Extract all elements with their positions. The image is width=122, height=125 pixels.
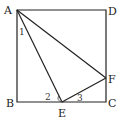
angle-label-2: 2 <box>45 92 51 102</box>
label-f: F <box>108 73 116 86</box>
geometry-figure: A D B C E F 1 2 3 <box>0 0 122 125</box>
angle-label-3: 3 <box>77 93 83 103</box>
square-abcd <box>17 10 106 102</box>
angle-label-1: 1 <box>19 27 25 37</box>
label-b: B <box>6 97 14 110</box>
label-c: C <box>108 97 116 110</box>
segment-ef <box>62 78 106 102</box>
label-e: E <box>58 107 66 120</box>
label-d: D <box>108 5 117 18</box>
segment-af <box>17 10 106 78</box>
label-a: A <box>3 4 13 17</box>
segment-ae <box>17 10 62 102</box>
